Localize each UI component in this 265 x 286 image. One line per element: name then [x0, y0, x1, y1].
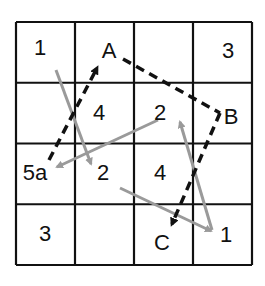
label-cell-1-top-left: 1	[34, 35, 46, 60]
label-point-B: B	[224, 104, 239, 129]
label-cell-3-top-right: 3	[222, 38, 234, 63]
label-cell-4-r2c2: 4	[93, 100, 105, 125]
grid-lines	[16, 22, 252, 265]
label-cell-2-r2c3: 2	[154, 100, 166, 125]
label-cell-5a: 5a	[23, 160, 48, 185]
dashed-arrow	[172, 113, 220, 224]
gray-arrow	[180, 122, 212, 230]
label-point-A: A	[102, 38, 117, 63]
label-point-C: C	[154, 230, 170, 255]
label-cell-1-bottom-right: 1	[220, 222, 232, 247]
label-cell-4-r3c3: 4	[154, 160, 166, 185]
grid-diagram: 1A342B5a243C1	[0, 0, 265, 286]
label-cell-3-bottom-left: 3	[39, 221, 51, 246]
gray-arrow	[56, 70, 91, 164]
dashed-arrow	[123, 59, 220, 113]
label-cell-2-r3c2: 2	[97, 160, 109, 185]
